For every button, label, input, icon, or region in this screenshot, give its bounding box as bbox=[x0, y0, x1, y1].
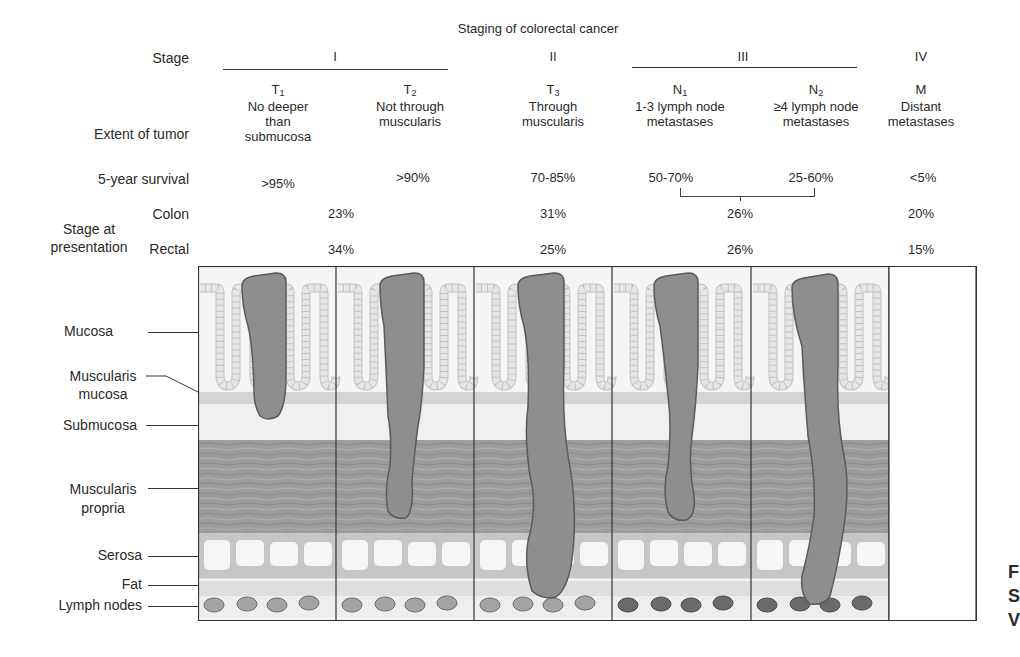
cropped-edge-text-3: V bbox=[1008, 608, 1020, 632]
layer-label-mucosa: Mucosa bbox=[64, 324, 113, 339]
stage-III-survival-bracket bbox=[680, 188, 815, 197]
row-label-extent: Extent of tumor bbox=[94, 127, 189, 142]
layer-label-muscularis-mucosa-1: Muscularis bbox=[70, 369, 137, 384]
extent-T2: Not throughmuscularis bbox=[376, 99, 444, 129]
survival-N2: 25-60% bbox=[789, 170, 834, 185]
diagram-title: Staging of colorectal cancer bbox=[458, 21, 618, 36]
rectal-stage-III: 26% bbox=[727, 242, 753, 257]
leader-line-submucosa bbox=[146, 425, 206, 426]
row-label-survival: 5-year survival bbox=[98, 172, 189, 187]
layer-label-muscularis-mucosa-2: mucosa bbox=[78, 387, 127, 402]
extent-M: Distantmetastases bbox=[888, 99, 954, 129]
stage-IV-label: IV bbox=[915, 49, 927, 64]
row-label-stage: Stage bbox=[152, 51, 189, 66]
cropped-edge-text-2: S bbox=[1008, 584, 1020, 608]
survival-N1: 50-70% bbox=[649, 170, 694, 185]
extent-N1: 1-3 lymph nodemetastases bbox=[635, 99, 725, 129]
stage-IV-empty-panel bbox=[889, 267, 976, 620]
rectal-stage-I: 34% bbox=[328, 242, 354, 257]
survival-T1: >95% bbox=[261, 176, 295, 191]
colon-stage-II: 31% bbox=[540, 206, 566, 221]
row-label-presentation-1: Stage at bbox=[63, 222, 115, 237]
layer-label-submucosa: Submucosa bbox=[63, 418, 137, 433]
rectal-stage-II: 25% bbox=[540, 242, 566, 257]
layer-label-fat: Fat bbox=[122, 577, 142, 592]
layer-label-muscularis-propria-1: Muscularis bbox=[70, 482, 137, 497]
cropped-edge-text-1: F bbox=[1008, 560, 1019, 584]
stage-III-bracket-tick bbox=[740, 196, 741, 201]
row-label-presentation-2: presentation bbox=[50, 240, 127, 255]
stage-II-label: II bbox=[549, 49, 556, 64]
colon-stage-I: 23% bbox=[328, 206, 354, 221]
survival-T3: 70-85% bbox=[531, 170, 576, 185]
stage-I-label: I bbox=[333, 49, 337, 64]
row-label-colon: Colon bbox=[152, 207, 189, 222]
extent-T1: No deeperthansubmucosa bbox=[245, 99, 311, 144]
extent-N2: ≥4 lymph nodemetastases bbox=[773, 99, 858, 129]
row-label-rectal: Rectal bbox=[149, 242, 189, 257]
stage-I-bracket-line bbox=[223, 69, 448, 70]
colon-stage-III: 26% bbox=[727, 206, 753, 221]
stage-III-bracket-line bbox=[632, 67, 857, 68]
survival-T2: >90% bbox=[396, 170, 430, 185]
layer-label-serosa: Serosa bbox=[98, 548, 142, 563]
rectal-stage-IV: 15% bbox=[908, 242, 934, 257]
colon-stage-IV: 20% bbox=[908, 206, 934, 221]
colon-wall-cross-section bbox=[198, 266, 977, 621]
extent-T3: Throughmuscularis bbox=[522, 99, 584, 129]
stage-III-label: III bbox=[738, 49, 749, 64]
layer-label-muscularis-propria-2: propria bbox=[81, 501, 125, 516]
column-code-M: M bbox=[916, 82, 927, 97]
layer-label-lymph-nodes: Lymph nodes bbox=[58, 598, 142, 613]
survival-M: <5% bbox=[910, 170, 936, 185]
